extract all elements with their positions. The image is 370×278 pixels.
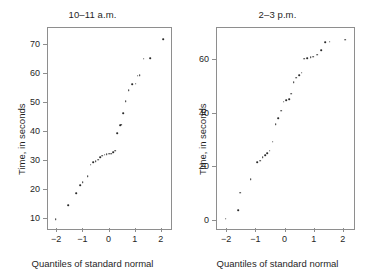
data-point — [256, 161, 258, 163]
data-point — [283, 101, 285, 103]
data-point — [306, 57, 308, 59]
data-point — [75, 193, 77, 195]
y-tick-label: 40 — [199, 108, 209, 118]
y-tick-mark — [212, 113, 216, 114]
data-point — [162, 38, 164, 40]
data-point — [264, 155, 266, 157]
y-tick-label: 60 — [30, 68, 40, 78]
plot-area-right — [217, 28, 354, 229]
y-tick-label: 60 — [199, 54, 209, 64]
panel-title: 10–11 a.m. — [0, 9, 185, 20]
data-point — [122, 112, 124, 114]
y-tick-mark — [212, 59, 216, 60]
x-tick-label: −2 — [51, 234, 61, 244]
x-tick-label: 0 — [106, 234, 111, 244]
panel-2-3-pm: 2–3 p.m. Time, in seconds Quantiles of s… — [185, 0, 370, 278]
x-tick-label: 2 — [158, 234, 163, 244]
data-point — [100, 156, 102, 158]
data-point — [286, 100, 288, 102]
x-tick-label: 2 — [340, 234, 345, 244]
data-point — [143, 58, 145, 60]
data-point — [301, 72, 303, 74]
y-tick-mark — [43, 160, 47, 161]
x-axis-title: Quantiles of standard normal — [185, 258, 370, 269]
data-point — [288, 98, 290, 100]
data-point — [135, 83, 137, 85]
data-point — [128, 89, 130, 91]
data-point — [329, 41, 331, 43]
data-point — [117, 132, 119, 134]
x-tick-mark — [82, 228, 83, 232]
data-point — [90, 164, 92, 166]
x-tick-mark — [255, 228, 256, 232]
x-tick-mark — [161, 228, 162, 232]
data-point — [102, 155, 104, 157]
data-point — [149, 58, 151, 60]
y-tick-mark — [43, 102, 47, 103]
data-point — [79, 185, 81, 187]
data-point — [272, 141, 274, 143]
x-tick-mark — [314, 228, 315, 232]
data-point — [240, 192, 242, 194]
x-tick-label: 1 — [311, 234, 316, 244]
data-point — [97, 159, 99, 161]
y-tick-label: 70 — [30, 39, 40, 49]
y-tick-label: 30 — [30, 155, 40, 165]
data-point — [344, 39, 346, 41]
panel-title: 2–3 p.m. — [185, 9, 370, 20]
y-tick-label: 20 — [199, 161, 209, 171]
x-tick-mark — [56, 228, 57, 232]
data-point — [225, 218, 227, 220]
x-tick-mark — [135, 228, 136, 232]
x-tick-mark — [343, 228, 344, 232]
data-point — [250, 178, 252, 180]
x-tick-mark — [109, 228, 110, 232]
y-tick-label: 20 — [30, 184, 40, 194]
x-tick-label: −1 — [77, 234, 87, 244]
y-tick-mark — [212, 166, 216, 167]
data-point — [275, 124, 277, 126]
y-tick-label: 50 — [30, 97, 40, 107]
data-point — [313, 56, 315, 58]
qq-plot-figure: 10–11 a.m. Time, in seconds Quantiles of… — [0, 0, 370, 278]
data-point — [320, 49, 322, 51]
y-tick-label: 10 — [30, 213, 40, 223]
x-tick-label: 1 — [132, 234, 137, 244]
data-point — [280, 110, 282, 112]
data-point — [291, 93, 293, 95]
y-tick-mark — [43, 73, 47, 74]
y-tick-label: 40 — [30, 126, 40, 136]
plot-frame — [47, 27, 172, 230]
y-tick-mark — [43, 189, 47, 190]
data-point — [92, 162, 94, 164]
data-point — [269, 150, 271, 152]
panel-10-11-am: 10–11 a.m. Time, in seconds Quantiles of… — [0, 0, 185, 278]
data-point — [316, 54, 318, 56]
x-axis-title: Quantiles of standard normal — [0, 258, 185, 269]
y-tick-label: 0 — [204, 215, 209, 225]
data-point — [260, 160, 262, 162]
data-point — [325, 41, 327, 43]
data-point — [82, 181, 84, 183]
data-point — [310, 57, 312, 59]
data-point — [55, 219, 57, 221]
x-tick-label: 0 — [282, 234, 287, 244]
plot-frame — [216, 27, 355, 230]
data-point — [67, 204, 69, 206]
y-axis-title: Time, in seconds — [16, 104, 27, 175]
data-point — [237, 209, 239, 211]
data-point — [120, 124, 122, 126]
data-point — [298, 74, 300, 76]
y-tick-mark — [43, 131, 47, 132]
data-point — [112, 152, 114, 154]
data-point — [87, 175, 89, 177]
x-tick-label: −1 — [250, 234, 260, 244]
y-tick-mark — [43, 44, 47, 45]
data-point — [125, 101, 127, 103]
x-tick-mark — [285, 228, 286, 232]
x-tick-mark — [226, 228, 227, 232]
data-point — [267, 152, 269, 154]
x-tick-label: −2 — [221, 234, 231, 244]
data-point — [131, 84, 133, 86]
data-point — [95, 160, 97, 162]
